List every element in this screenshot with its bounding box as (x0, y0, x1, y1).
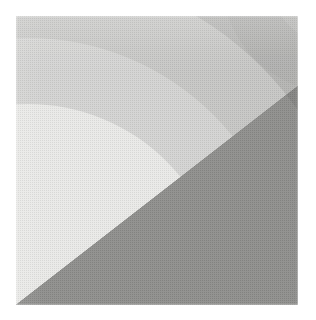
page-root: Grayscale concentric arc bands Nested ci… (0, 0, 316, 320)
image-plate (16, 16, 298, 305)
scan-illumination (16, 16, 298, 305)
arc-band-graphic (16, 16, 298, 305)
